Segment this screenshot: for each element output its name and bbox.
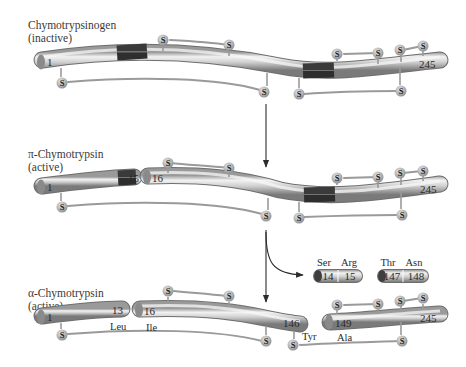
svg-text:Arg: Arg <box>341 257 358 268</box>
svg-text:S: S <box>264 211 269 221</box>
residue-start-label: 1 <box>47 181 53 193</box>
svg-text:S: S <box>376 172 381 182</box>
svg-text:S: S <box>398 45 403 55</box>
svg-text:147: 147 <box>384 270 401 282</box>
svg-text:S: S <box>297 89 302 99</box>
svg-text:Asn: Asn <box>406 257 424 268</box>
disulfide-bridge <box>304 91 398 94</box>
svg-text:S: S <box>335 173 340 183</box>
disulfide-bridge <box>170 40 228 45</box>
svg-text:S: S <box>376 48 381 58</box>
svg-text:Thr: Thr <box>380 257 396 268</box>
cleavage-region-15-16 <box>117 51 147 53</box>
svg-text:S: S <box>335 49 340 59</box>
stage-title: Chymotrypsinogen <box>28 19 116 32</box>
svg-text:S: S <box>60 78 65 88</box>
residue-start-label: 1 <box>47 311 53 323</box>
residue-end-label: 13 <box>112 304 124 316</box>
residue-name-ala: Ala <box>337 332 353 343</box>
svg-text:S: S <box>291 340 296 350</box>
svg-text:S: S <box>398 168 403 178</box>
svg-text:S: S <box>400 210 405 220</box>
svg-text:S: S <box>166 158 171 168</box>
stage-pi-chymotrypsin: π-Chymotrypsin (active) 1 15 16 245 S S … <box>28 148 440 224</box>
stage-chymotrypsinogen: Chymotrypsinogen (inactive) 1 245 S S S … <box>28 19 440 100</box>
svg-text:S: S <box>421 293 426 303</box>
cleavage-region-146-149 <box>304 194 335 195</box>
svg-text:15: 15 <box>345 270 357 282</box>
svg-text:S: S <box>60 330 65 340</box>
svg-text:S: S <box>335 300 340 310</box>
chymotrypsin-activation-diagram: Chymotrypsinogen (inactive) 1 245 S S S … <box>0 0 466 367</box>
svg-text:S: S <box>264 336 269 346</box>
svg-text:S: S <box>60 202 65 212</box>
svg-text:S: S <box>262 87 267 97</box>
svg-text:S: S <box>421 41 426 51</box>
disulfide-bridge <box>304 215 398 217</box>
svg-text:S: S <box>227 163 232 173</box>
svg-text:S: S <box>166 286 171 296</box>
residue-name-ile: Ile <box>146 322 157 333</box>
svg-text:S: S <box>161 35 166 45</box>
disulfide-bridge <box>68 79 260 90</box>
svg-text:S: S <box>227 40 232 50</box>
residue-name-leu: Leu <box>110 321 127 332</box>
residue-end-label: 245 <box>420 312 437 324</box>
svg-text:S: S <box>227 291 232 301</box>
disulfide-bridge <box>68 331 262 341</box>
stage-subtitle: (inactive) <box>28 32 72 45</box>
disulfide-bridge <box>68 203 262 214</box>
released-dipeptide-ser-arg: Ser Arg 14 15 <box>313 257 363 283</box>
svg-text:S: S <box>297 213 302 223</box>
residue-end-label: 146 <box>283 317 300 329</box>
stage-subtitle: (active) <box>28 161 63 174</box>
cleavage-region-146-149 <box>303 70 334 71</box>
disulfide-bridge <box>174 291 226 296</box>
residue-end-label: 245 <box>420 183 437 195</box>
residue-start-label: 149 <box>335 317 352 329</box>
svg-text:S: S <box>399 86 404 96</box>
svg-text:Ser: Ser <box>317 257 332 268</box>
svg-text:S: S <box>400 336 405 346</box>
svg-text:14: 14 <box>323 270 335 282</box>
svg-text:148: 148 <box>408 270 425 282</box>
released-dipeptide-thr-asn: Thr Asn 147 148 <box>377 257 429 283</box>
svg-text:S: S <box>398 296 403 306</box>
residue-start-label: 16 <box>144 305 156 317</box>
stage-title: α-Chymotrypsin <box>28 287 104 300</box>
svg-text:S: S <box>376 299 381 309</box>
residue-start-label: 1 <box>47 56 53 68</box>
svg-text:S: S <box>421 166 426 176</box>
residue-end-label: 15 <box>128 172 140 184</box>
residue-name-tyr: Tyr <box>302 331 317 342</box>
release-arrow <box>266 232 303 275</box>
residue-end-label: 245 <box>419 58 436 70</box>
stage-alpha-chymotrypsin: α-Chymotrypsin (active) 1 13 Leu 16 Ile … <box>28 286 440 351</box>
stage-title: π-Chymotrypsin <box>28 148 104 161</box>
residue-start-label: 16 <box>152 172 164 184</box>
